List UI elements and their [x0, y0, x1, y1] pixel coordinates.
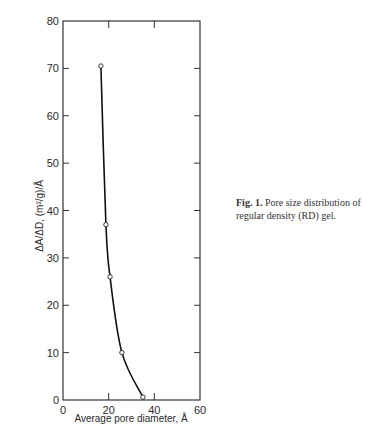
figure-label: Fig. 1.	[236, 197, 262, 208]
data-point-marker	[120, 350, 124, 354]
fitted-curve	[101, 66, 143, 397]
y-tick-label: 80	[47, 15, 59, 27]
figure-caption: Fig. 1. Pore size distribution of regula…	[236, 196, 376, 222]
y-tick-label: 0	[53, 394, 59, 406]
y-tick-label: 20	[47, 299, 59, 311]
y-tick-label: 40	[47, 205, 59, 217]
x-axis-title: Average pore diameter, Å	[74, 412, 188, 424]
plot-frame	[63, 21, 200, 400]
x-tick-label: 60	[194, 404, 206, 416]
y-tick-label: 70	[47, 62, 59, 74]
tick-labels: 010203040506070800204060	[47, 15, 206, 416]
data-point-marker	[104, 223, 108, 227]
x-tick-label: 0	[60, 404, 66, 416]
data-point-marker	[99, 64, 103, 68]
axis-ticks	[63, 21, 200, 400]
y-tick-label: 50	[47, 157, 59, 169]
y-axis-title: ΔA/ΔD, (m²/g)/Å	[33, 180, 45, 252]
y-tick-label: 10	[47, 347, 59, 359]
data-point-marker	[141, 395, 145, 399]
pore-size-chart: 010203040506070800204060 Average pore di…	[0, 0, 376, 447]
y-tick-label: 60	[47, 110, 59, 122]
y-tick-label: 30	[47, 252, 59, 264]
data-point-marker	[108, 275, 112, 279]
